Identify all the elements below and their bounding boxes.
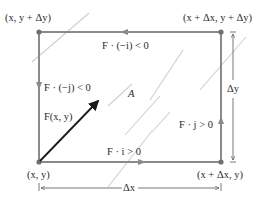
left-edge-down-arrow-icon bbox=[36, 82, 42, 90]
corner-label-top-left: (x, y + Δy) bbox=[5, 13, 51, 24]
top-edge-left-arrow-icon bbox=[120, 29, 128, 35]
field-line bbox=[150, 50, 183, 100]
edge-label-left: F · (−j) < 0 bbox=[44, 83, 91, 94]
field-line bbox=[200, 37, 246, 90]
edge-label-right: F · j > 0 bbox=[179, 120, 213, 131]
dimension-label-dy: Δy bbox=[227, 84, 239, 95]
vector-label: F(x, y) bbox=[44, 112, 73, 123]
vector-arrow-F bbox=[40, 101, 98, 161]
dy-dimension bbox=[230, 32, 236, 162]
region-label: A bbox=[128, 89, 134, 100]
green-theorem-rectangle-diagram: (x, y + Δy) (x + Δx, y + Δy) (x, y) (x +… bbox=[0, 0, 270, 202]
right-edge-up-arrow-icon bbox=[218, 116, 224, 124]
field-line bbox=[152, 112, 170, 132]
corner-label-top-right: (x + Δx, y + Δy) bbox=[183, 13, 252, 24]
dimension-label-dx: Δx bbox=[123, 183, 135, 194]
edge-label-top: F · (−i) < 0 bbox=[102, 41, 149, 52]
corner-label-bottom-right: (x + Δx, y) bbox=[197, 170, 243, 181]
corner-label-bottom-left: (x, y) bbox=[27, 170, 50, 181]
field-line bbox=[108, 131, 152, 187]
edge-label-bottom: F · i > 0 bbox=[107, 147, 141, 158]
bottom-edge-right-arrow-icon bbox=[138, 159, 146, 165]
